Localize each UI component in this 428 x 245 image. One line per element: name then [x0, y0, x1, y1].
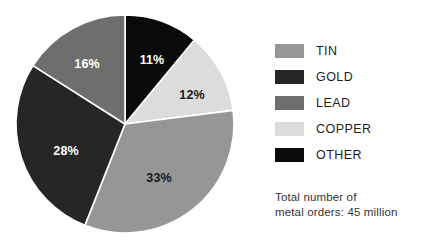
- pie-slice-label-lead: 16%: [74, 57, 99, 71]
- pie-chart-area: 11%12%33%28%16%: [0, 0, 250, 245]
- footnote-line-1: Total number of: [275, 190, 427, 205]
- pie-chart-figure: 11%12%33%28%16% TINGOLDLEADCOPPEROTHER T…: [0, 0, 428, 245]
- legend-item-other[interactable]: OTHER: [275, 142, 425, 168]
- legend-label-copper: COPPER: [316, 122, 372, 136]
- chart-legend: TINGOLDLEADCOPPEROTHER: [275, 38, 425, 168]
- legend-item-copper[interactable]: COPPER: [275, 116, 425, 142]
- pie-slice-group: [16, 15, 234, 233]
- legend-label-other: OTHER: [316, 148, 362, 162]
- pie-slice-label-other: 11%: [140, 53, 165, 67]
- legend-label-gold: GOLD: [316, 70, 353, 84]
- legend-label-tin: TIN: [316, 44, 338, 58]
- legend-item-lead[interactable]: LEAD: [275, 90, 425, 116]
- pie-slice-label-copper: 12%: [179, 88, 204, 102]
- legend-item-tin[interactable]: TIN: [275, 38, 425, 64]
- chart-footnote: Total number of metal orders: 45 million: [275, 190, 427, 220]
- legend-swatch-tin: [275, 44, 304, 58]
- legend-swatch-lead: [275, 96, 304, 110]
- legend-swatch-other: [275, 148, 304, 162]
- pie-slice-label-gold: 28%: [53, 144, 78, 158]
- footnote-line-2: metal orders: 45 million: [275, 205, 427, 220]
- pie-slice-label-tin: 33%: [146, 171, 171, 185]
- legend-swatch-gold: [275, 70, 304, 84]
- legend-swatch-copper: [275, 122, 304, 136]
- legend-label-lead: LEAD: [316, 96, 350, 110]
- pie-chart-svg: 11%12%33%28%16%: [0, 0, 250, 245]
- legend-item-gold[interactable]: GOLD: [275, 64, 425, 90]
